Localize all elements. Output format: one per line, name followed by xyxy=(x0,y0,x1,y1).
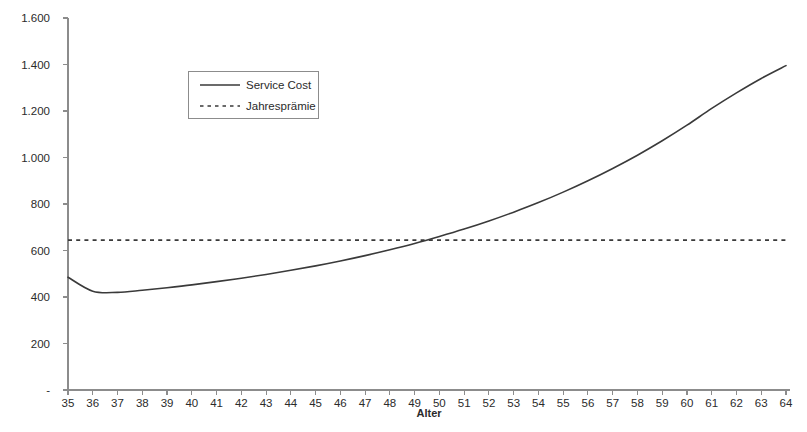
y-axis-tick-labels: -2004006008001.0001.2001.4001.600 xyxy=(21,12,50,396)
x-tick-label: 59 xyxy=(656,397,669,409)
x-tick-label: 57 xyxy=(606,397,619,409)
y-tick-label: 200 xyxy=(31,338,50,350)
y-tick-label: 600 xyxy=(31,245,50,257)
x-tick-label: 45 xyxy=(309,397,322,409)
x-tick-label: 61 xyxy=(705,397,718,409)
x-tick-label: 38 xyxy=(136,397,149,409)
x-tick-label: 39 xyxy=(161,397,174,409)
x-tick-label: 60 xyxy=(681,397,694,409)
x-tick-label: 48 xyxy=(383,397,396,409)
x-tick-label: 52 xyxy=(482,397,495,409)
series-line-service-cost xyxy=(68,66,786,293)
x-tick-label: 43 xyxy=(260,397,273,409)
x-tick-label: 46 xyxy=(334,397,347,409)
y-tick-label: 800 xyxy=(31,198,50,210)
legend: Service Cost Jahresprämie xyxy=(188,72,318,119)
x-tick-label: 41 xyxy=(210,397,223,409)
x-axis-title: Alter xyxy=(416,407,442,419)
x-tick-label: 36 xyxy=(86,397,99,409)
y-tick-label: 1.400 xyxy=(21,59,50,71)
legend-label-service-cost: Service Cost xyxy=(246,79,312,91)
x-tick-label: 64 xyxy=(780,397,793,409)
y-axis-ticks xyxy=(63,18,68,390)
y-tick-label: 1.600 xyxy=(21,12,50,24)
x-tick-label: 56 xyxy=(582,397,595,409)
y-tick-label: 1.000 xyxy=(21,152,50,164)
x-tick-label: 37 xyxy=(111,397,124,409)
x-tick-label: 63 xyxy=(755,397,768,409)
legend-label-jahrespraemie: Jahresprämie xyxy=(246,100,316,112)
x-tick-label: 47 xyxy=(359,397,372,409)
y-tick-label: 400 xyxy=(31,291,50,303)
y-tick-label: 1.200 xyxy=(21,105,50,117)
x-tick-label: 55 xyxy=(557,397,570,409)
x-tick-label: 53 xyxy=(507,397,520,409)
x-tick-label: 51 xyxy=(458,397,471,409)
chart-container: -2004006008001.0001.2001.4001.600 353637… xyxy=(0,0,807,432)
x-tick-label: 54 xyxy=(532,397,545,409)
x-tick-label: 44 xyxy=(284,397,297,409)
x-tick-label: 58 xyxy=(631,397,644,409)
x-tick-label: 35 xyxy=(62,397,75,409)
x-tick-label: 42 xyxy=(235,397,248,409)
x-tick-label: 40 xyxy=(185,397,198,409)
x-tick-label: 62 xyxy=(730,397,743,409)
line-chart: -2004006008001.0001.2001.4001.600 353637… xyxy=(0,0,807,432)
y-tick-label: - xyxy=(46,384,50,396)
x-axis-ticks xyxy=(68,390,786,395)
